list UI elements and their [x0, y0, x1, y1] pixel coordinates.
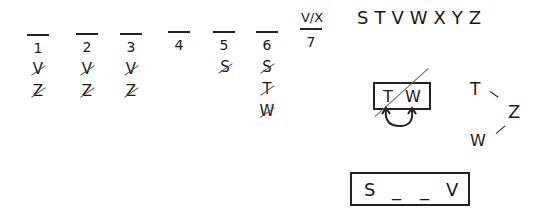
candidate-letter: V	[27, 62, 49, 77]
candidate-letter: S	[214, 60, 236, 75]
candidate-letter: V	[76, 62, 98, 77]
slot-line	[213, 31, 235, 33]
slot-number: 3	[120, 40, 142, 55]
sv-first: S	[364, 179, 375, 200]
slot-line	[256, 31, 278, 33]
slot-number: 5	[213, 38, 235, 53]
slot-number: 7	[300, 35, 322, 50]
triangle-z: Z	[508, 104, 520, 119]
slot-line	[27, 34, 49, 36]
slot-line	[76, 33, 98, 35]
connector	[490, 91, 499, 98]
candidate-letter: Z	[120, 84, 142, 99]
slot-line	[168, 31, 190, 33]
candidate-letter: S	[256, 60, 278, 75]
triangle-t: T	[470, 82, 480, 97]
connector	[496, 125, 506, 134]
swap-arrow-icon	[380, 106, 420, 132]
candidate-letter: W	[256, 104, 278, 119]
letter-set: STVWXYZ	[357, 10, 487, 25]
slot-line	[300, 28, 322, 30]
candidate-letter: Z	[76, 84, 98, 99]
slot-number: 6	[256, 38, 278, 53]
candidate-letter: V	[120, 62, 142, 77]
slot-number: 2	[76, 40, 98, 55]
sv-blank: _	[420, 179, 429, 200]
sv-block: S _ _ V	[350, 172, 470, 206]
sv-blank: _	[392, 179, 401, 200]
slot-filled-value: V/X	[298, 10, 326, 25]
slot-line	[120, 33, 142, 35]
sv-last: V	[446, 179, 458, 200]
triangle-w: W	[470, 133, 486, 148]
slot-number: 1	[27, 41, 49, 56]
tw-right-letter: W	[405, 87, 421, 106]
candidate-letter: T	[256, 82, 278, 97]
candidate-letter: Z	[27, 84, 49, 99]
slot-number: 4	[168, 38, 190, 53]
